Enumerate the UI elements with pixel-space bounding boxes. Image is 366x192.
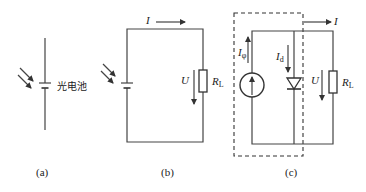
- diode: [287, 78, 301, 89]
- current-label: I: [145, 14, 151, 26]
- panel-a: 光电池 (a): [18, 38, 87, 179]
- current-label: I: [333, 15, 339, 27]
- wire-bottom: [127, 88, 203, 142]
- circuit-diagram: 光电池 (a) I U RL (b): [0, 0, 366, 192]
- wire-top: [127, 29, 203, 83]
- voltage-label: U: [181, 74, 190, 86]
- wire-top: [252, 31, 333, 73]
- load-resistor: [329, 71, 337, 93]
- photocell-label: 光电池: [57, 80, 87, 92]
- wire-bottom: [252, 93, 333, 144]
- light-arrows-icon: [18, 68, 33, 88]
- caption-c: (c): [285, 166, 298, 179]
- panel-c: Iφ Id I U RL (c): [234, 13, 354, 179]
- caption-b: (b): [161, 166, 174, 179]
- load-resistor: [199, 70, 207, 92]
- diode-current-label: Id: [275, 50, 284, 64]
- photo-current-label: Iφ: [237, 46, 247, 60]
- caption-a: (a): [36, 166, 49, 179]
- resistor-label: RL: [211, 75, 224, 89]
- resistor-label: RL: [341, 76, 354, 90]
- voltage-label: U: [311, 74, 320, 86]
- light-arrows-icon: [101, 64, 115, 83]
- panel-b: I U RL (b): [101, 14, 224, 179]
